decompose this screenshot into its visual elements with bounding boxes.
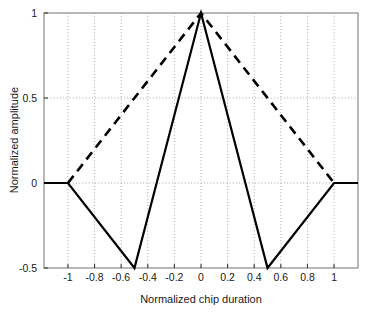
x-tick-label-7: 0.4 xyxy=(247,271,262,283)
x-tick-label-10: 1 xyxy=(331,271,337,283)
x-tick-label-0: -1 xyxy=(63,271,72,283)
figure-container: -1-0.8-0.6-0.4-0.200.20.40.60.81 10.50-0… xyxy=(0,0,370,312)
y-tick-label-2: 0 xyxy=(31,177,37,189)
x-axis-title: Normalized chip duration xyxy=(140,293,262,305)
chart-canvas: -1-0.8-0.6-0.4-0.200.20.40.60.81 10.50-0… xyxy=(0,0,370,312)
x-tick-label-2: -0.6 xyxy=(112,271,130,283)
x-tick-label-1: -0.8 xyxy=(86,271,104,283)
x-tick-label-3: -0.4 xyxy=(139,271,157,283)
axes-border xyxy=(44,13,358,268)
x-tick-labels: -1-0.8-0.6-0.4-0.200.20.40.60.81 xyxy=(63,271,337,283)
plot-frame xyxy=(44,13,358,268)
y-tick-labels: 10.50-0.5 xyxy=(19,7,37,274)
x-tick-label-4: -0.2 xyxy=(165,271,183,283)
x-tick-label-5: 0 xyxy=(198,271,204,283)
grid-lines xyxy=(44,13,358,268)
x-tick-label-9: 0.8 xyxy=(300,271,315,283)
y-tick-label-3: -0.5 xyxy=(19,262,37,274)
y-tick-label-1: 0.5 xyxy=(22,92,37,104)
data-series-layer xyxy=(44,13,358,268)
x-tick-label-8: 0.6 xyxy=(274,271,289,283)
series-solid-waveform xyxy=(44,13,358,268)
tick-marks xyxy=(44,13,334,268)
x-tick-label-6: 0.2 xyxy=(220,271,235,283)
y-tick-label-0: 1 xyxy=(31,7,37,19)
y-axis-title: Normalized amplitude xyxy=(8,87,20,193)
